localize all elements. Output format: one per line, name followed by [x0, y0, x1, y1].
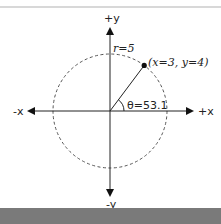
point-marker [142, 63, 147, 68]
label-pos-x: +x [198, 105, 214, 118]
arrow-down-icon [106, 189, 114, 197]
label-pos-y: +y [104, 12, 120, 25]
bottom-band [0, 208, 221, 224]
arrow-up-icon [106, 27, 114, 35]
arrow-left-icon [27, 107, 35, 115]
arrow-right-icon [186, 107, 194, 115]
polar-diagram: +y -y +x -x r=5 (x=3, y=4) θ=53.1 [0, 0, 221, 224]
angle-label: θ=53.1 [127, 99, 167, 112]
label-neg-x: -x [13, 105, 24, 118]
angle-arc [118, 100, 124, 111]
radius-label: r=5 [113, 42, 134, 55]
point-label: (x=3, y=4) [148, 56, 208, 69]
